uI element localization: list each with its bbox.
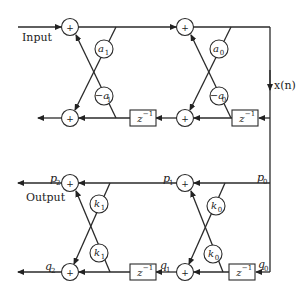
- label-p2: p 2: [50, 172, 60, 187]
- adder-top-1: +: [62, 19, 79, 36]
- output-label: Output: [26, 191, 66, 204]
- coef-neg-a0: −a 0: [210, 87, 228, 105]
- delay-z3: z −1: [130, 264, 156, 280]
- svg-text:+: +: [66, 23, 74, 33]
- delay-z2: z −1: [232, 110, 258, 126]
- delay-z1: z −1: [130, 110, 156, 126]
- label-q1: q 1: [160, 259, 170, 274]
- svg-text:−1: −1: [143, 110, 153, 118]
- adder-bottom-4: +: [177, 264, 194, 281]
- label-p1: p 1: [163, 172, 173, 187]
- svg-text:−1: −1: [143, 264, 153, 272]
- svg-text:1: 1: [169, 179, 173, 187]
- svg-text:−1: −1: [245, 110, 255, 118]
- svg-text:+: +: [181, 114, 189, 124]
- svg-text:−1: −1: [242, 264, 252, 272]
- bottom-section: + + + + k 1 k 1 k 0: [18, 171, 270, 281]
- svg-text:k: k: [211, 200, 217, 211]
- svg-text:+: +: [66, 268, 74, 278]
- coef-k0-top: k 0: [207, 197, 225, 215]
- svg-text:0: 0: [222, 96, 226, 104]
- label-p0: p 0: [257, 171, 267, 186]
- svg-text:1: 1: [107, 96, 111, 104]
- adder-top-2: +: [177, 19, 194, 36]
- adder-bottom-1: +: [62, 175, 79, 192]
- svg-text:+: +: [66, 114, 74, 124]
- svg-text:1: 1: [166, 266, 170, 274]
- lattice-diagram: + + + + a 1 −a 1 a 0: [0, 0, 306, 297]
- svg-text:k: k: [94, 198, 100, 209]
- svg-text:1: 1: [105, 49, 109, 57]
- svg-text:+: +: [181, 23, 189, 33]
- label-q2: q 2: [45, 260, 55, 275]
- svg-text:k: k: [94, 247, 100, 258]
- svg-text:0: 0: [215, 254, 219, 262]
- svg-text:0: 0: [264, 265, 268, 273]
- coef-k1-bottom: k 1: [90, 244, 108, 262]
- svg-text:+: +: [181, 179, 189, 189]
- input-label: Input: [22, 31, 53, 44]
- svg-text:2: 2: [56, 179, 60, 187]
- adder-top-4: +: [177, 110, 194, 127]
- svg-text:a: a: [213, 43, 219, 54]
- delay-z4: z −1: [229, 264, 255, 280]
- label-q0: q 0: [258, 258, 268, 273]
- coef-k0-bottom: k 0: [204, 245, 222, 263]
- svg-text:k: k: [208, 248, 214, 259]
- coef-a0: a 0: [210, 40, 228, 58]
- svg-text:1: 1: [101, 253, 105, 261]
- coef-a1: a 1: [95, 40, 113, 58]
- coef-neg-a1: −a 1: [95, 87, 113, 105]
- svg-text:0: 0: [220, 49, 224, 57]
- svg-text:+: +: [66, 179, 74, 189]
- adder-bottom-2: +: [177, 175, 194, 192]
- svg-text:1: 1: [101, 204, 105, 212]
- svg-text:0: 0: [263, 178, 267, 186]
- svg-text:2: 2: [51, 267, 55, 275]
- svg-text:0: 0: [218, 206, 222, 214]
- top-section: + + + + a 1 −a 1 a 0: [18, 19, 296, 273]
- adder-top-3: +: [62, 110, 79, 127]
- coef-k1-top: k 1: [90, 195, 108, 213]
- xn-label: x(n): [274, 79, 296, 92]
- svg-text:a: a: [98, 43, 104, 54]
- svg-text:+: +: [181, 268, 189, 278]
- adder-bottom-3: +: [62, 264, 79, 281]
